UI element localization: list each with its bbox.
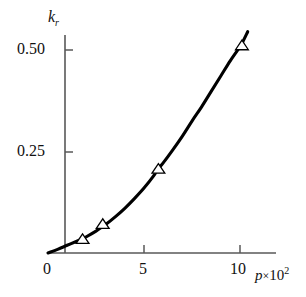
y-tick-label-050: 0.50: [17, 41, 45, 57]
y-tick-label-025: 0.25: [17, 143, 45, 159]
x-tick-label-5: 5: [139, 261, 147, 277]
x-axis-title-base: p: [255, 267, 263, 283]
x-axis-title: p×102: [255, 266, 289, 283]
data-point-marker: [236, 40, 249, 50]
x-tick-label-0: 0: [43, 261, 51, 277]
y-axis-title: kr: [48, 9, 59, 28]
x-axis-title-exponent: 2: [284, 265, 289, 276]
x-tick-label-10: 10: [230, 261, 246, 277]
y-axis-title-subscript: r: [55, 17, 59, 28]
data-curve: [48, 32, 248, 253]
multiplication-sign: ×: [263, 269, 270, 283]
chart-plot-area: [0, 0, 306, 297]
chart-figure: 0.50 0.25 0 5 10 kr p×102: [0, 0, 306, 297]
